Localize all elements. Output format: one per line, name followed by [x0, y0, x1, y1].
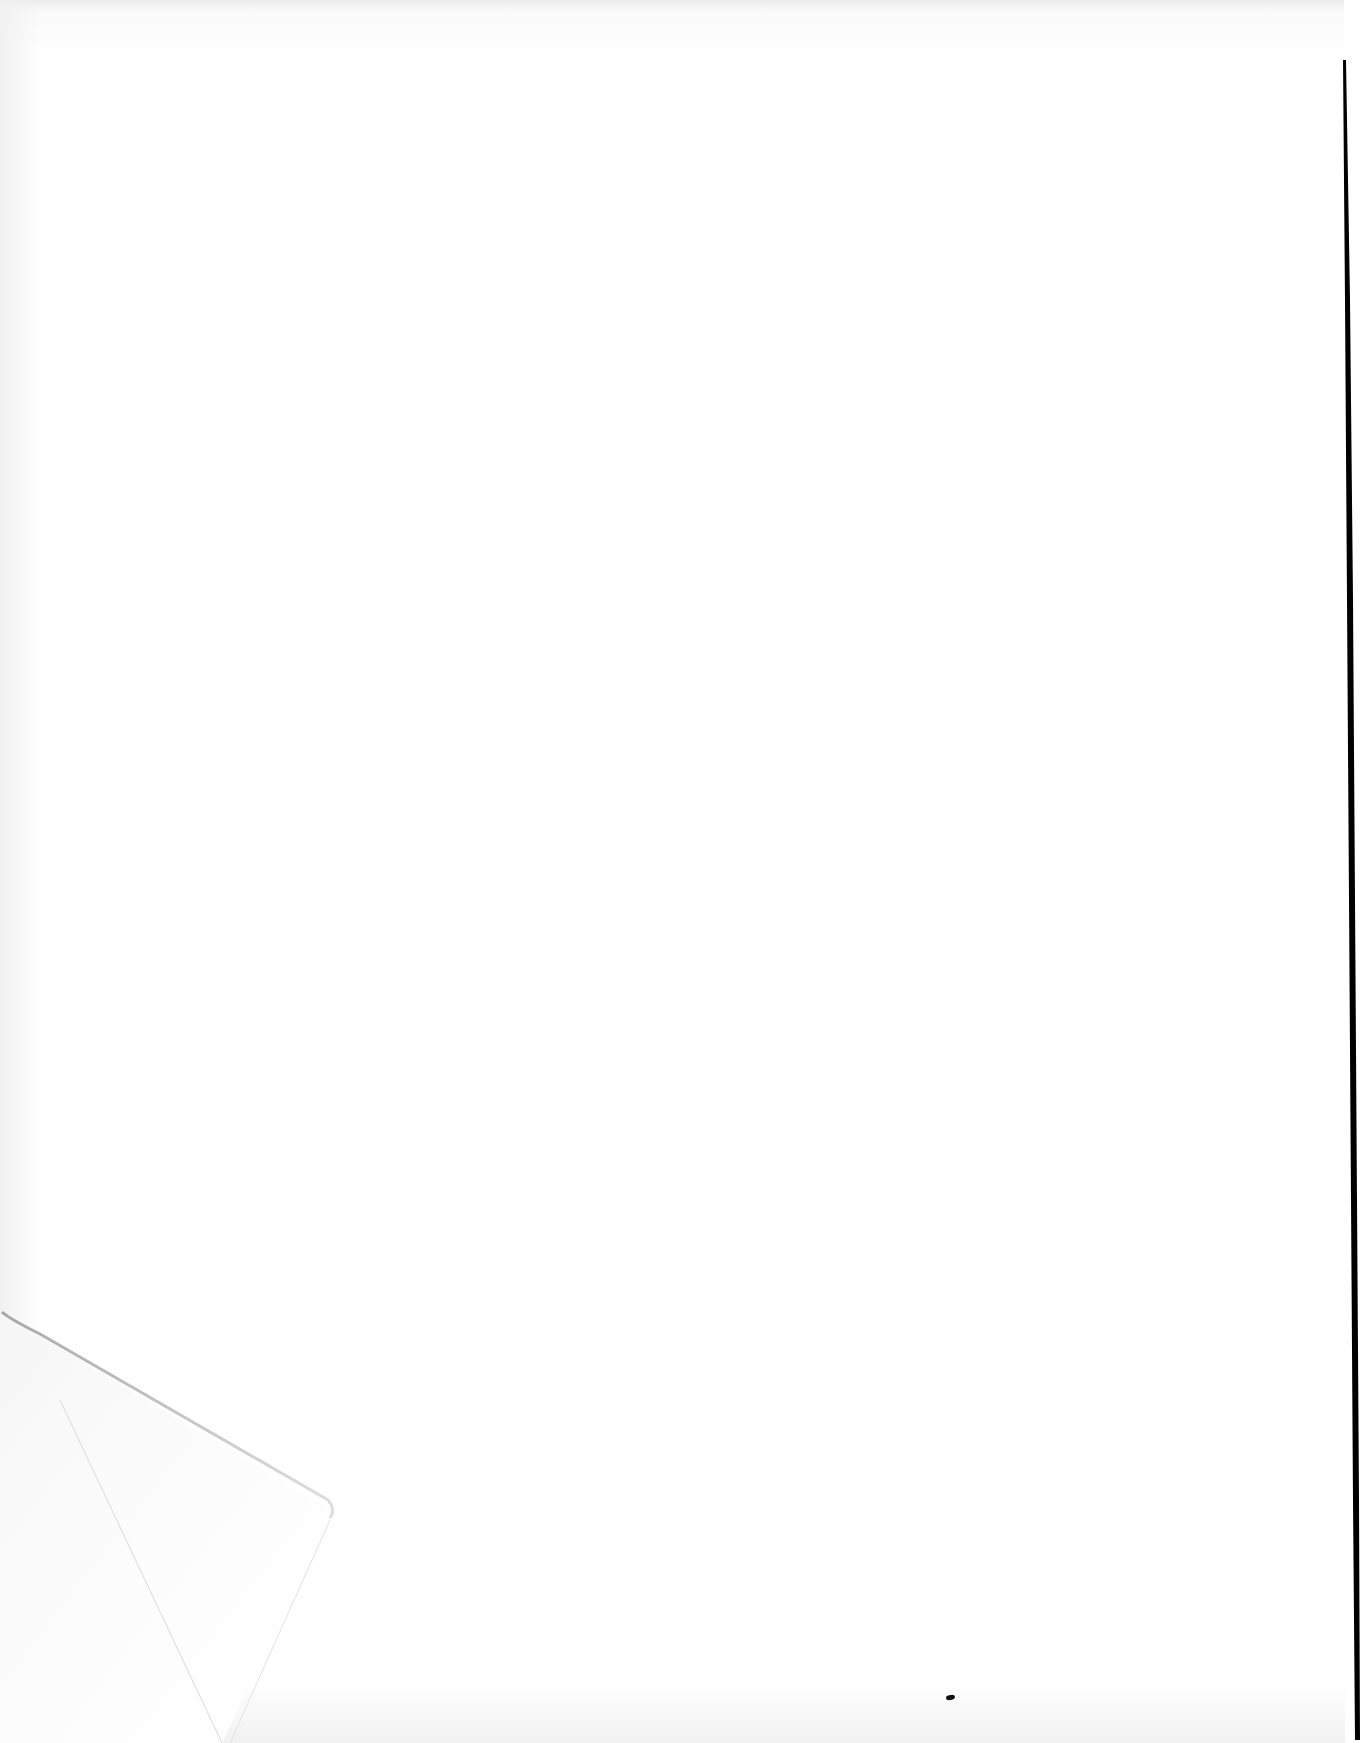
- scanned-page: [0, 0, 1369, 1743]
- binding-edge-shadow: [1341, 0, 1369, 1743]
- paper-sheet: [0, 0, 1345, 1743]
